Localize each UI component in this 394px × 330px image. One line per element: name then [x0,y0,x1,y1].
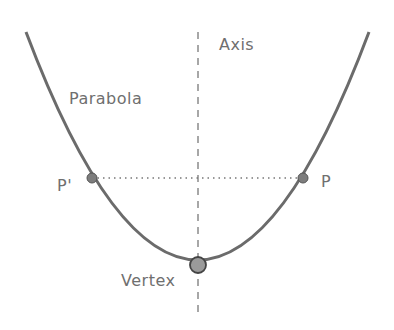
parabola-label: Parabola [69,89,142,108]
p-prime-label: P' [57,176,72,195]
vertex-point [190,257,206,273]
parabola-diagram [0,0,394,330]
point-p [298,173,308,183]
point-p-prime [87,173,97,183]
p-label: P [321,172,331,191]
parabola-curve [26,32,369,260]
axis-label: Axis [219,35,254,54]
vertex-label: Vertex [121,271,175,290]
